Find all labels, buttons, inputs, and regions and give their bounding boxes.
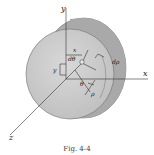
cylinder-diagram: y x z x y dθ dρ θ ρ [0, 0, 154, 155]
element-marker [80, 60, 84, 64]
y-axis-label: y [60, 4, 66, 13]
rho-label: ρ [90, 90, 95, 98]
y-offset-label: y [52, 66, 57, 74]
drho-label: dρ [112, 58, 120, 66]
theta-label: θ [80, 80, 84, 87]
z-axis-label: z [8, 133, 14, 142]
dtheta-label: dθ [68, 55, 76, 62]
figure-caption: Fig. 4-4 [0, 145, 154, 153]
x-axis-label: x [143, 69, 148, 78]
